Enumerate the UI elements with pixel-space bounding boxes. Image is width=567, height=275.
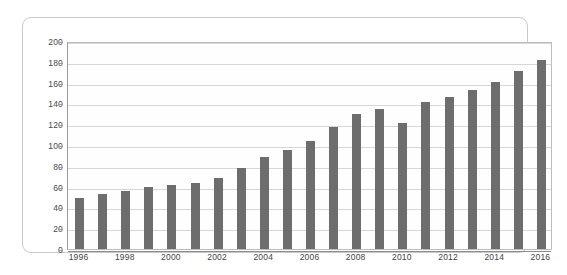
x-tick-label-1998: 1998: [115, 252, 135, 262]
y-axis: 020406080100120140160180200: [23, 42, 63, 250]
bar: [421, 102, 430, 249]
x-tick-label-2004: 2004: [253, 252, 273, 262]
y-tick-label-200: 200: [29, 37, 63, 47]
y-tick-mark-100: [59, 146, 63, 147]
bar: [514, 71, 523, 249]
bar-series: [68, 43, 551, 249]
plot-area: [67, 42, 552, 250]
y-tick-label-20: 20: [29, 224, 63, 234]
x-tick-label-1996: 1996: [69, 252, 89, 262]
x-tick-label-2000: 2000: [161, 252, 181, 262]
y-tick-label-180: 180: [29, 58, 63, 68]
y-tick-mark-140: [59, 104, 63, 105]
y-tick-mark-60: [59, 188, 63, 189]
bar: [306, 141, 315, 249]
y-tick-mark-80: [59, 167, 63, 168]
bar: [491, 82, 500, 249]
y-tick-mark-0: [59, 250, 63, 251]
bar: [283, 150, 292, 249]
y-tick-mark-180: [59, 63, 63, 64]
bar: [237, 168, 246, 249]
y-tick-label-60: 60: [29, 183, 63, 193]
bar: [375, 109, 384, 249]
bar: [398, 123, 407, 249]
x-axis: 1996199820002002200420062008201020122014…: [67, 252, 552, 268]
x-tick-label-2010: 2010: [392, 252, 412, 262]
y-tick-label-160: 160: [29, 79, 63, 89]
bar: [75, 198, 84, 249]
x-tick-label-2008: 2008: [346, 252, 366, 262]
y-tick-label-40: 40: [29, 203, 63, 213]
bar: [191, 183, 200, 249]
bar: [98, 194, 107, 249]
bar: [537, 60, 546, 249]
bar: [167, 185, 176, 249]
chart-card: 020406080100120140160180200 199619982000…: [22, 17, 528, 253]
bar: [352, 114, 361, 249]
bar: [121, 191, 130, 249]
y-tick-mark-40: [59, 208, 63, 209]
y-tick-mark-20: [59, 229, 63, 230]
bar: [144, 187, 153, 249]
y-tick-label-80: 80: [29, 162, 63, 172]
y-tick-label-140: 140: [29, 99, 63, 109]
y-tick-mark-160: [59, 84, 63, 85]
bar: [214, 178, 223, 249]
x-tick-label-2006: 2006: [300, 252, 320, 262]
y-tick-mark-120: [59, 125, 63, 126]
y-tick-mark-200: [59, 42, 63, 43]
y-tick-label-0: 0: [29, 245, 63, 255]
bar: [260, 157, 269, 249]
x-tick-label-2002: 2002: [207, 252, 227, 262]
bar: [445, 97, 454, 249]
x-tick-label-2014: 2014: [484, 252, 504, 262]
x-tick-label-2016: 2016: [531, 252, 551, 262]
bar: [468, 90, 477, 249]
y-tick-label-100: 100: [29, 141, 63, 151]
bar: [329, 127, 338, 249]
y-tick-label-120: 120: [29, 120, 63, 130]
x-tick-label-2012: 2012: [438, 252, 458, 262]
